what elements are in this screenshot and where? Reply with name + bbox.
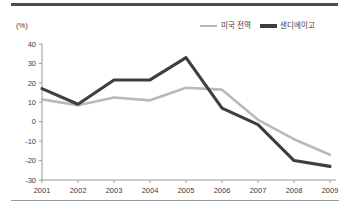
x-tick-label: 2006 xyxy=(214,186,231,195)
y-tick-label: -20 xyxy=(25,156,36,165)
x-tick-label: 2003 xyxy=(106,186,123,195)
x-tick-label: 2002 xyxy=(70,186,87,195)
x-tick-label: 2001 xyxy=(34,186,51,195)
y-tick-label: 10 xyxy=(28,98,36,107)
y-tick-label: 40 xyxy=(28,40,36,49)
x-tick-label: 2004 xyxy=(142,186,159,195)
y-tick-label: 20 xyxy=(28,79,36,88)
y-axis-ticks: 403020100-10-20-30 xyxy=(25,40,42,185)
x-tick-label: 2007 xyxy=(250,186,267,195)
data-series-group xyxy=(42,58,330,167)
chart-plot-area: 403020100-10-20-30 200120022003200420052… xyxy=(0,0,347,210)
y-tick-label: -10 xyxy=(25,137,36,146)
series-line-san-diego xyxy=(42,58,330,167)
x-tick-label: 2005 xyxy=(178,186,195,195)
y-tick-label: -30 xyxy=(25,176,36,185)
x-tick-label: 2008 xyxy=(286,186,303,195)
y-tick-label: 0 xyxy=(32,117,36,126)
y-tick-label: 30 xyxy=(28,59,36,68)
bottom-divider-rule xyxy=(11,200,339,201)
x-tick-label: 2009 xyxy=(322,186,339,195)
x-axis-ticks: 200120022003200420052006200720082009 xyxy=(34,180,339,195)
chart-figure: (%) 미국 전역 샌디에이고 403020100-10-20-30 20012… xyxy=(0,0,347,210)
